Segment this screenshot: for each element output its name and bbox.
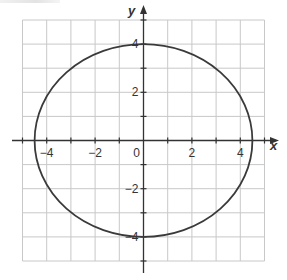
y-axis-label: y xyxy=(127,3,136,18)
x-tick-label: 0 xyxy=(133,146,140,160)
y-tick-label: 4 xyxy=(132,37,139,51)
x-tick-label: −4 xyxy=(40,146,54,160)
x-tick-label: 2 xyxy=(189,146,196,160)
y-tick-label: −2 xyxy=(125,182,139,196)
axes xyxy=(12,5,279,273)
x-tick-label: 4 xyxy=(237,146,244,160)
y-tick-label: −4 xyxy=(125,230,139,244)
x-axis-label: x xyxy=(269,138,278,153)
y-axis-arrow-icon xyxy=(140,5,147,14)
coordinate-plane: −4−202442−2−4 x y xyxy=(0,0,287,280)
x-tick-label: −2 xyxy=(88,146,102,160)
y-tick-label: 2 xyxy=(132,85,139,99)
